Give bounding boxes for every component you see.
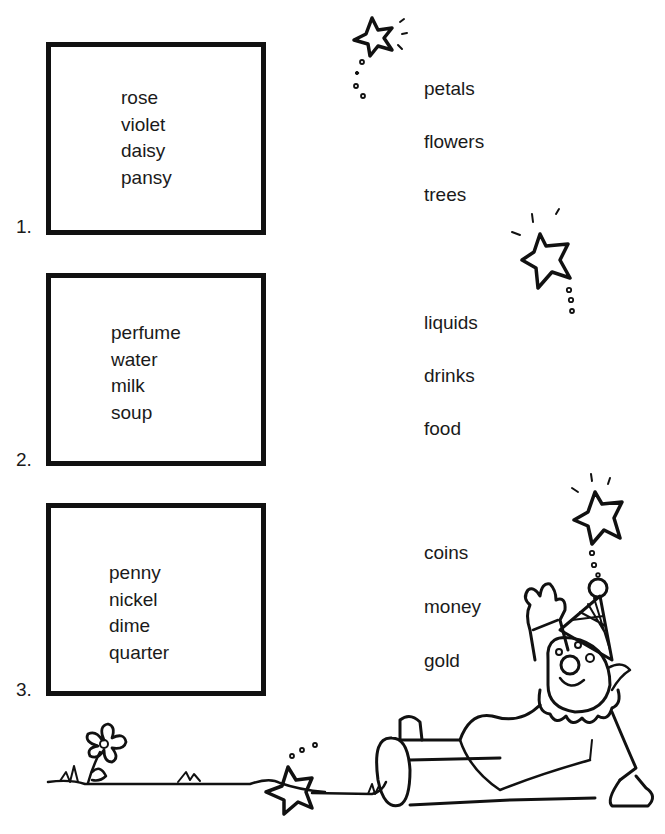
star-icon [354,18,407,98]
decorative-artwork [0,0,665,834]
flower-icon [87,724,126,783]
star-icon [572,474,622,577]
clown-illustration [377,579,653,806]
star-icon [266,743,317,814]
star-icon [512,209,574,313]
